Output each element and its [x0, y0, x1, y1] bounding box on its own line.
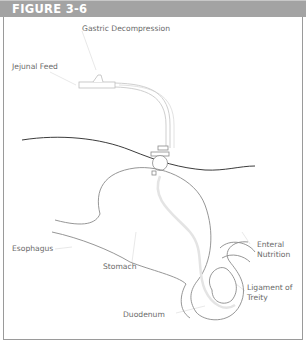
label-enteral-line2: Nutrition [257, 250, 290, 260]
leader-duodenum [176, 306, 205, 313]
label-stomach: Stomach [103, 262, 136, 272]
label-jejunal-feed: Jejunal Feed [12, 62, 58, 72]
abdominal-wall [22, 137, 255, 170]
label-ligament-line2: Treity [247, 293, 268, 303]
label-esophagus: Esophagus [12, 244, 53, 254]
leader-esophagus [55, 247, 72, 249]
gastrostomy-button [151, 146, 169, 175]
label-ligament-line1: Ligament of [247, 283, 292, 293]
label-gastric-decompression: Gastric Decompression [82, 24, 170, 34]
gi-tract [52, 168, 255, 320]
label-duodenum: Duodenum [123, 310, 165, 320]
jejunal-tube-internal [158, 176, 235, 308]
leader-gastric-decompression [82, 31, 96, 70]
leader-lines [50, 31, 250, 313]
figure: FIGURE 3-6 [0, 0, 306, 345]
label-enteral-line1: Enteral [257, 240, 284, 250]
y-connector [79, 75, 115, 88]
leader-jejunal-feed [50, 72, 76, 85]
leader-stomach [132, 232, 136, 262]
feeding-tube [115, 83, 174, 148]
